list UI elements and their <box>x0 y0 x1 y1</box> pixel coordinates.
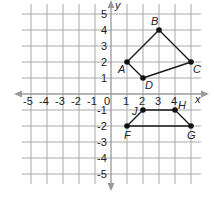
y-tick-label: 2 <box>101 56 107 68</box>
y-tick-label: -2 <box>97 120 107 132</box>
point-label-d: D <box>145 79 153 91</box>
x-axis-label: x <box>194 93 201 105</box>
point-b <box>156 27 162 33</box>
x-tick-label: -4 <box>39 95 49 107</box>
x-axis-right-arrow-icon <box>201 91 209 98</box>
x-axis-left-arrow-icon <box>14 91 22 98</box>
point-label-h: H <box>178 99 186 111</box>
x-tick-label: -3 <box>55 95 65 107</box>
x-tick-label: -5 <box>23 95 33 107</box>
point-label-f: F <box>124 129 132 141</box>
point-g <box>188 123 194 129</box>
point-h <box>172 107 178 113</box>
point-f <box>124 123 130 129</box>
y-tick-label: -4 <box>97 152 107 164</box>
point-label-c: C <box>193 63 201 75</box>
point-j <box>140 107 146 113</box>
x-tick-label: 2 <box>139 95 145 107</box>
x-tick-label: -1 <box>87 95 97 107</box>
x-tick-label: 1 <box>123 95 129 107</box>
x-tick-label: 3 <box>155 95 161 107</box>
point-label-b: B <box>151 15 158 27</box>
y-tick-label: 5 <box>101 8 107 20</box>
point-label-a: A <box>117 63 125 75</box>
point-label-j: J <box>131 105 138 117</box>
y-tick-label: 4 <box>101 24 107 36</box>
y-axis-up-arrow-icon <box>108 0 115 8</box>
y-axis-label: y <box>114 0 122 11</box>
coordinate-plane: x y -5-4-3-2-10123454321-1-2-3-4-5 ABCDF… <box>0 0 214 205</box>
x-tick-label: 4 <box>171 95 177 107</box>
y-axis-down-arrow-icon <box>108 183 115 191</box>
point-label-g: G <box>187 129 196 141</box>
y-tick-label: -3 <box>97 136 107 148</box>
x-tick-label: -2 <box>71 95 81 107</box>
y-tick-label: 1 <box>101 72 107 84</box>
y-tick-label: 3 <box>101 40 107 52</box>
y-tick-label: -5 <box>97 168 107 180</box>
y-tick-label: -1 <box>97 104 107 116</box>
